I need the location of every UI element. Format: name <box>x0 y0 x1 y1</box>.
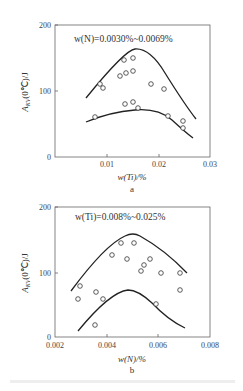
chart-b: 200 100 0 0.002 0.004 0.006 0.008 w(Ti)=… <box>20 203 219 375</box>
annotation-a: w(N)=0.0030%~0.0069% <box>74 34 173 45</box>
xlabel-a: w(Ti)/% <box>117 172 146 182</box>
ylabel-a: AKV(0℃)/J <box>20 72 31 113</box>
xtick-b-0006: 0.006 <box>149 341 167 350</box>
ytick-a-0: 0 <box>47 153 51 162</box>
ylabel-b: AKV(0℃)/J <box>20 253 31 294</box>
figure: 200 100 0 0.01 0.02 0.03 w(N)=0.0030%~0.… <box>0 0 243 391</box>
xlabel-b: w(N)/% <box>118 354 146 364</box>
panel-label-b: b <box>130 365 135 375</box>
ytick-b-200: 200 <box>39 203 51 212</box>
svg-text:AKV(0℃)/J: AKV(0℃)/J <box>20 72 31 113</box>
xtick-a-003: 0.03 <box>203 160 217 169</box>
panel-label-a: a <box>130 184 134 194</box>
lower-curve-a <box>86 110 193 138</box>
plot-frame-a <box>55 25 210 157</box>
ytick-a-100: 100 <box>39 87 51 96</box>
ytick-b-100: 100 <box>39 269 51 278</box>
chart-a: 200 100 0 0.01 0.02 0.03 w(N)=0.0030%~0.… <box>20 21 217 194</box>
xtick-b-0008: 0.008 <box>201 341 219 350</box>
upper-curve-b <box>71 234 187 291</box>
xtick-a-002: 0.02 <box>152 160 166 169</box>
svg-text:AKV(0℃)/J: AKV(0℃)/J <box>20 253 31 294</box>
xtick-b-0004: 0.004 <box>98 341 116 350</box>
ytick-a-200: 200 <box>39 21 51 30</box>
xtick-a-001: 0.01 <box>100 160 114 169</box>
annotation-b: w(Ti)=0.008%~0.025% <box>75 212 165 223</box>
faded-caption <box>10 380 235 383</box>
xtick-b-0002: 0.002 <box>46 341 64 350</box>
